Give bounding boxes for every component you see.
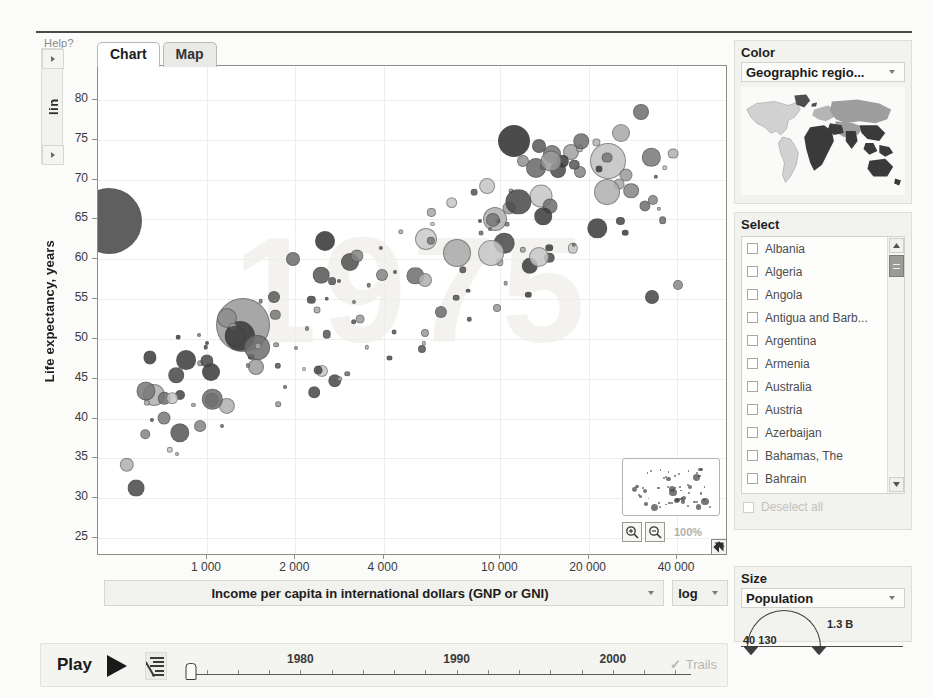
data-bubble[interactable] (345, 371, 351, 377)
data-bubble[interactable] (421, 329, 429, 337)
scatter-plot[interactable]: 1975 100% (97, 65, 727, 555)
data-bubble[interactable] (498, 125, 530, 157)
country-list-item[interactable]: Azerbaijan (742, 421, 904, 444)
timeline-thumb[interactable] (186, 663, 197, 680)
y-scale-down-button[interactable] (42, 145, 64, 165)
data-bubble[interactable] (324, 297, 329, 302)
data-bubble[interactable] (529, 247, 549, 267)
data-bubble[interactable] (294, 346, 298, 350)
data-bubble[interactable] (612, 124, 630, 142)
country-list-item[interactable]: Argentina (742, 329, 904, 352)
tab-map[interactable]: Map (163, 42, 217, 67)
data-bubble[interactable] (355, 315, 364, 324)
size-range-slider[interactable]: 40 130 1.3 B (741, 613, 905, 657)
country-list-item[interactable]: Australia (742, 375, 904, 398)
data-bubble[interactable] (220, 424, 224, 428)
scroll-up-icon[interactable] (889, 238, 904, 253)
country-checkbox[interactable] (747, 243, 758, 254)
data-bubble[interactable] (418, 273, 432, 287)
data-bubble[interactable] (668, 148, 679, 159)
country-list[interactable]: AlbaniaAlgeriaAngolaAntigua and Barb...A… (741, 236, 905, 494)
country-list-item[interactable]: Bangladesh (742, 490, 904, 494)
country-checkbox[interactable] (747, 266, 758, 277)
data-bubble[interactable] (352, 300, 356, 304)
country-checkbox[interactable] (747, 404, 758, 415)
data-bubble[interactable] (596, 165, 603, 172)
zoom-out-button[interactable] (645, 522, 665, 542)
data-bubble[interactable] (274, 342, 280, 348)
data-bubble[interactable] (275, 401, 281, 407)
country-list-item[interactable]: Austria (742, 398, 904, 421)
data-bubble[interactable] (640, 201, 651, 212)
data-bubble[interactable] (120, 457, 134, 471)
y-scale-mode-label[interactable]: lin (42, 77, 64, 137)
data-bubble[interactable] (654, 175, 658, 179)
data-bubble[interactable] (466, 288, 471, 293)
data-bubble[interactable] (594, 179, 620, 205)
y-scale-up-button[interactable] (42, 49, 64, 69)
country-checkbox[interactable] (747, 358, 758, 369)
data-bubble[interactable] (478, 240, 504, 266)
data-bubble[interactable] (616, 217, 624, 225)
color-dimension-select[interactable]: Geographic regio... (741, 62, 905, 82)
data-bubble[interactable] (175, 452, 179, 456)
data-bubble[interactable] (314, 307, 321, 314)
country-list-item[interactable]: Albania (742, 237, 904, 260)
data-bubble[interactable] (194, 420, 206, 432)
data-bubble[interactable] (337, 279, 341, 283)
data-bubble[interactable] (657, 207, 661, 211)
data-bubble[interactable] (471, 189, 478, 196)
data-bubble[interactable] (387, 356, 392, 361)
data-bubble[interactable] (328, 277, 336, 285)
country-checkbox[interactable] (747, 450, 758, 461)
data-bubble[interactable] (443, 239, 471, 267)
country-list-item[interactable]: Angola (742, 283, 904, 306)
country-list-item[interactable]: Algeria (742, 260, 904, 283)
data-bubble[interactable] (255, 343, 262, 350)
data-bubble[interactable] (140, 429, 150, 439)
country-checkbox[interactable] (747, 289, 758, 300)
data-bubble[interactable] (446, 197, 458, 209)
data-bubble[interactable] (128, 480, 145, 497)
data-bubble[interactable] (588, 219, 607, 238)
country-checkbox[interactable] (747, 381, 758, 392)
data-bubble[interactable] (392, 329, 397, 334)
data-bubble[interactable] (351, 319, 357, 325)
x-axis-selector[interactable]: Income per capita in international dolla… (104, 580, 664, 606)
data-bubble[interactable] (302, 367, 306, 371)
data-bubble[interactable] (283, 385, 287, 389)
data-bubble[interactable] (642, 148, 660, 166)
data-bubble[interactable] (532, 139, 546, 153)
zoom-in-button[interactable] (622, 522, 642, 542)
data-bubble[interactable] (248, 359, 264, 375)
deselect-all-checkbox[interactable] (743, 502, 754, 513)
country-checkbox[interactable] (747, 427, 758, 438)
scrollbar-thumb[interactable] (889, 255, 904, 277)
data-bubble[interactable] (633, 104, 649, 120)
data-bubble[interactable] (645, 290, 659, 304)
country-list-scrollbar[interactable] (887, 237, 904, 493)
data-bubble[interactable] (622, 229, 629, 236)
trails-toggle[interactable]: ✓ Trails (670, 657, 717, 672)
country-checkbox[interactable] (747, 473, 758, 484)
data-bubble[interactable] (191, 403, 195, 407)
data-bubble[interactable] (376, 269, 388, 281)
data-bubble[interactable] (150, 418, 154, 422)
data-bubble[interactable] (493, 304, 501, 312)
speed-control-icon[interactable] (145, 652, 167, 680)
data-bubble[interactable] (315, 231, 335, 251)
size-dimension-select[interactable]: Population (741, 588, 905, 608)
size-min-handle[interactable] (743, 646, 759, 655)
data-bubble[interactable] (573, 133, 589, 149)
data-bubble[interactable] (503, 281, 508, 286)
data-bubble[interactable] (540, 151, 561, 172)
country-list-item[interactable]: Bahamas, The (742, 444, 904, 467)
data-bubble[interactable] (479, 178, 495, 194)
country-list-item[interactable]: Antigua and Barb... (742, 306, 904, 329)
data-bubble[interactable] (286, 252, 300, 266)
data-bubble[interactable] (314, 365, 323, 374)
country-checkbox[interactable] (747, 312, 758, 323)
data-bubble[interactable] (488, 227, 492, 231)
data-bubble[interactable] (168, 367, 184, 383)
data-bubble[interactable] (601, 152, 612, 163)
